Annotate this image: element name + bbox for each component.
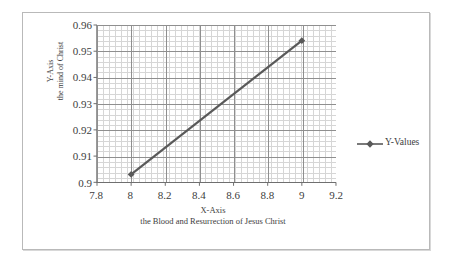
y-tick-label: 0.94 <box>52 72 92 83</box>
series-line-y-values <box>131 41 302 175</box>
y-tick-label: 0.96 <box>52 20 92 31</box>
y-axis-tick-labels: 0.960.950.940.930.920.910.9 <box>50 25 92 183</box>
y-tick-label: 0.95 <box>52 46 92 57</box>
plot-area <box>96 25 336 183</box>
x-tick-label: 8 <box>113 189 147 201</box>
x-tick-label: 8.8 <box>250 189 284 201</box>
chart-legend: Y-Values <box>356 136 419 148</box>
y-tick-label: 0.92 <box>52 125 92 136</box>
x-tick-label: 9 <box>285 189 319 201</box>
series-layer <box>97 25 336 182</box>
y-tick-label: 0.91 <box>52 151 92 162</box>
x-axis-title: X-Axis the Blood and Resurrection of Jes… <box>63 205 363 227</box>
x-axis-title-line2: the Blood and Resurrection of Jesus Chri… <box>63 216 363 227</box>
x-axis-title-line1: X-Axis <box>63 205 363 216</box>
y-tick-label: 0.9 <box>52 178 92 189</box>
legend-marker-icon <box>356 136 384 148</box>
x-tick-label: 8.2 <box>148 189 182 201</box>
y-tick-label: 0.93 <box>52 99 92 110</box>
x-axis-tick-labels: 7.888.28.48.68.899.2 <box>96 189 336 203</box>
x-tick-label: 9.2 <box>319 189 353 201</box>
legend-label-y-values: Y-Values <box>385 137 419 147</box>
chart-container: Y-Axis the mind of Christ 0.960.950.940.… <box>22 12 430 250</box>
x-tick-label: 7.8 <box>79 189 113 201</box>
x-tick-label: 8.4 <box>182 189 216 201</box>
x-tick-label: 8.6 <box>216 189 250 201</box>
